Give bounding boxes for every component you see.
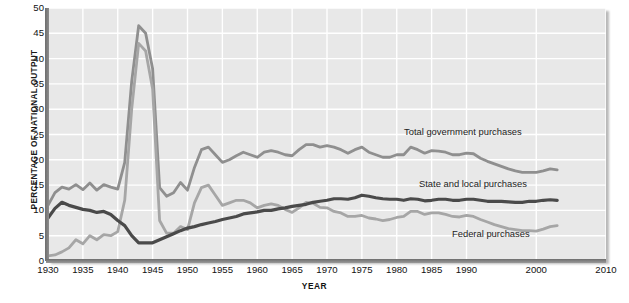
x-tick-2010: 2010 <box>586 265 626 275</box>
chart-svg <box>48 8 606 261</box>
x-axis-title: YEAR <box>0 281 629 291</box>
x-axis-line <box>46 259 606 263</box>
y-tick-45: 45 <box>20 28 44 38</box>
y-axis-line <box>45 8 49 261</box>
x-tick-2000: 2000 <box>516 265 556 275</box>
x-tick-1990: 1990 <box>447 265 487 275</box>
x-axis-tick-labels: 1930193519401945195019551960196519701975… <box>0 265 629 279</box>
series-lines <box>48 26 557 256</box>
series-label-state-and-local: State and local purchases <box>419 178 527 189</box>
y-tick-30: 30 <box>20 104 44 114</box>
y-tick-15: 15 <box>20 180 44 190</box>
y-tick-40: 40 <box>20 54 44 64</box>
chart-figure: PERCENTAGE OF NATIONAL OUTPUT 0510152025… <box>0 0 629 303</box>
y-tick-25: 25 <box>20 130 44 140</box>
plot-area <box>48 8 606 261</box>
gridlines <box>48 8 606 261</box>
y-tick-5: 5 <box>20 231 44 241</box>
y-tick-35: 35 <box>20 79 44 89</box>
series-label-federal: Federal purchases <box>452 228 530 239</box>
y-tick-10: 10 <box>20 205 44 215</box>
y-tick-50: 50 <box>20 3 44 13</box>
y-tick-20: 20 <box>20 155 44 165</box>
plot-canvas <box>48 8 606 261</box>
series-label-total-government: Total government purchases <box>404 126 522 137</box>
y-axis-tick-labels: 05101520253035404550 <box>18 0 44 303</box>
